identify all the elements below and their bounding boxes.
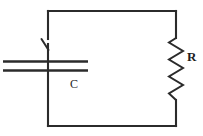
- circuit-schematic-svg: [0, 0, 203, 136]
- resistor-zigzag: [169, 38, 183, 100]
- resistor-label: R: [187, 50, 196, 63]
- capacitor-label: C: [70, 78, 78, 90]
- rc-circuit-figure: C R: [0, 0, 203, 136]
